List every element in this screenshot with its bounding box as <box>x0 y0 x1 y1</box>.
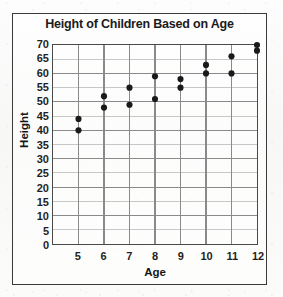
scatter-point <box>254 48 260 54</box>
scatter-point <box>126 102 132 108</box>
y-axis-tick-label: 65 <box>37 52 49 64</box>
scatter-point <box>177 76 183 82</box>
scatter-point <box>75 116 81 122</box>
x-axis-tick-label: 9 <box>178 250 184 262</box>
x-axis-tick-label: 11 <box>226 250 238 262</box>
y-axis-tick-label: 10 <box>37 210 49 222</box>
y-axis-tick-label: 45 <box>37 110 49 122</box>
x-axis-tick-label: 7 <box>126 250 132 262</box>
scatter-point <box>126 85 132 91</box>
x-axis-tick-label: 5 <box>75 250 81 262</box>
scatter-point <box>101 104 107 110</box>
x-axis-tick-label: 8 <box>152 250 158 262</box>
chart-title: Height of Children Based on Age <box>12 17 267 31</box>
y-axis-tick-label: 55 <box>37 81 49 93</box>
scatter-point <box>228 70 234 76</box>
y-axis-tick-label: 70 <box>37 38 49 50</box>
scatter-point <box>203 70 209 76</box>
x-axis-tick-label: 12 <box>252 250 264 262</box>
y-axis-tick-label: 30 <box>37 153 49 165</box>
scatter-point <box>254 42 260 48</box>
x-axis-tick-labels: 56789101112 <box>52 250 258 264</box>
y-axis-tick-label: 50 <box>37 95 49 107</box>
y-axis-tick-labels: 7065605550454035302520151050 <box>22 44 49 245</box>
y-axis-tick-label: 35 <box>37 139 49 151</box>
scatter-point <box>101 93 107 99</box>
page-background: Height of Children Based on Age Height A… <box>0 0 283 297</box>
y-axis-tick-label: 25 <box>37 167 49 179</box>
scatter-point <box>152 96 158 102</box>
scatter-point <box>228 53 234 59</box>
scatter-points <box>53 45 257 244</box>
y-axis-tick-label: 15 <box>37 196 49 208</box>
x-axis-title: Age <box>52 266 258 278</box>
y-axis-tick-label: 40 <box>37 124 49 136</box>
plot-area <box>52 44 258 245</box>
x-axis-tick-label: 6 <box>100 250 106 262</box>
x-axis-tick-label: 10 <box>200 250 212 262</box>
scatter-point <box>203 62 209 68</box>
scatter-point <box>75 127 81 133</box>
scatter-point <box>177 85 183 91</box>
scatter-point <box>152 73 158 79</box>
y-axis-tick-label: 0 <box>43 239 49 251</box>
y-axis-tick-label: 5 <box>43 225 49 237</box>
y-axis-tick-label: 60 <box>37 67 49 79</box>
y-axis-tick-label: 20 <box>37 182 49 194</box>
